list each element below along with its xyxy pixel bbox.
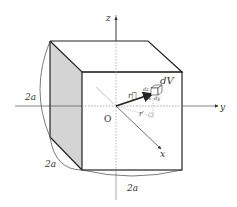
z-axis-label: z [105,13,111,23]
cube-diagram: z y x O r⃗ r′ dV dz dx dy 2a 2a 2a [0,0,237,207]
shaded-left-face [50,41,82,170]
origin-label: O [104,114,111,124]
x-axis-hidden [96,87,116,106]
depth-dimension-label: 2a [44,159,56,169]
dx-label: dx [145,95,151,101]
r-prime-label: r′ [139,110,144,118]
volume-element-box[interactable] [151,85,162,95]
dy-label: dy [154,95,160,102]
dz-label: dz [143,86,149,92]
x-axis-label: x [160,149,165,159]
dV-label: dV [160,75,175,86]
width-dimension-label: 2a [126,183,138,193]
height-dimension-label: 2a [24,92,36,102]
r-vector-label: r⃗ [128,91,137,100]
height-dimension-arc [40,41,50,137]
y-axis-label: y [219,102,226,112]
width-dimension-arc [82,170,182,176]
